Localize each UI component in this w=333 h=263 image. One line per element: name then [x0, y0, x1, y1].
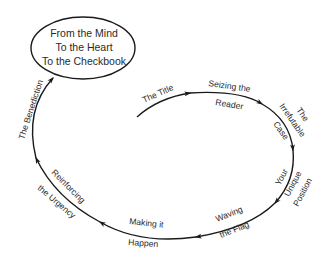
label-irrefutable-line-3: Case: [271, 119, 291, 141]
label-happen: Making it Happen: [128, 216, 165, 249]
goal-line-3: To the Checkbook: [42, 55, 127, 67]
label-flag: Waving the Flag: [214, 204, 251, 240]
goal-line-2: To the Heart: [55, 41, 112, 53]
cycle-diagram: From the Mind To the Heart To the Checkb…: [0, 0, 333, 263]
label-unique: Your Unique Position: [273, 167, 314, 208]
label-benediction: The Benediction: [16, 78, 45, 140]
label-happen-line-2: Happen: [128, 237, 159, 249]
goal-line-1: From the Mind: [50, 27, 118, 39]
label-seizing-line-2: Reader: [215, 97, 245, 111]
label-seizing-line-1: Seizing the: [208, 78, 252, 94]
label-irrefutable: The Irrefutable Case: [271, 101, 311, 141]
goal-node: From the Mind To the Heart To the Checkb…: [31, 17, 135, 79]
label-seizing: Seizing the Reader: [208, 78, 252, 111]
step-labels: The Title Seizing the Reader The Irrefut…: [16, 78, 314, 249]
label-title: The Title: [141, 82, 175, 105]
label-flag-line-2: the Flag: [218, 219, 251, 240]
label-happen-line-1: Making it: [129, 216, 165, 230]
